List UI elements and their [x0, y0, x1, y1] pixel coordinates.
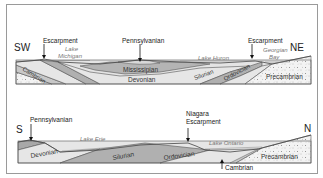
georgian-bay-label-1: Georgian	[263, 47, 288, 53]
top-cross-section: SW NE Escarpment Pennsylvanian Escarpmen…	[14, 37, 311, 85]
arrowhead-icon	[250, 55, 254, 59]
pennsylvanian-top-label: Pennsylvanian	[122, 37, 165, 45]
niagara-label-2: Escarpment	[186, 118, 221, 126]
cambrian-bottom-label: Cambrian	[225, 164, 254, 171]
lake-huron-label: Lake Huron	[198, 55, 230, 61]
strata-precambrian-top: Precambrian	[266, 73, 303, 80]
strata-devonian-top: Devonian	[128, 76, 156, 83]
direction-sw: SW	[14, 42, 31, 53]
escarpment-left-label: Escarpment	[43, 37, 78, 45]
pennsylvanian-bottom-label: Pennsylvanian	[30, 116, 73, 124]
arrowhead-icon	[42, 55, 46, 59]
direction-n: N	[304, 123, 311, 134]
geologic-cross-sections: SW NE Escarpment Pennsylvanian Escarpmen…	[0, 0, 323, 178]
lake-ontario-label: Lake Ontario	[209, 140, 244, 146]
strata-mississippian: Mississipian	[123, 66, 158, 74]
lake-erie-label: Lake Erie	[80, 136, 106, 142]
lake-michigan-label-1: Lake	[65, 46, 79, 52]
strata-precambrian-bottom: Precambrian	[261, 153, 298, 160]
georgian-bay-label-2: Bay	[269, 54, 280, 60]
direction-s: S	[16, 124, 23, 135]
lake-michigan-label-2: Michigan	[58, 53, 83, 59]
escarpment-right-label: Escarpment	[248, 37, 283, 45]
direction-ne: NE	[290, 42, 304, 53]
niagara-label-1: Niagara	[186, 110, 209, 118]
bottom-cross-section: S N Pennsylvanian Niagara Escarpment Cam…	[16, 110, 311, 171]
